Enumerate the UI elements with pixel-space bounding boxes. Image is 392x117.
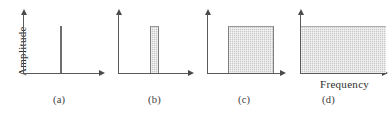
spectrum-bandwidth-figure: Amplitude (a) (b) (c) Frequency (d) [0, 0, 392, 117]
panel-d: Frequency (d) [0, 0, 392, 117]
spectrum-band-wide [301, 26, 386, 73]
x-axis-label: Frequency [320, 78, 369, 90]
x-axis-line [300, 73, 384, 74]
y-axis-arrow-icon [298, 9, 304, 15]
panel-label-d: (d) [322, 94, 335, 105]
